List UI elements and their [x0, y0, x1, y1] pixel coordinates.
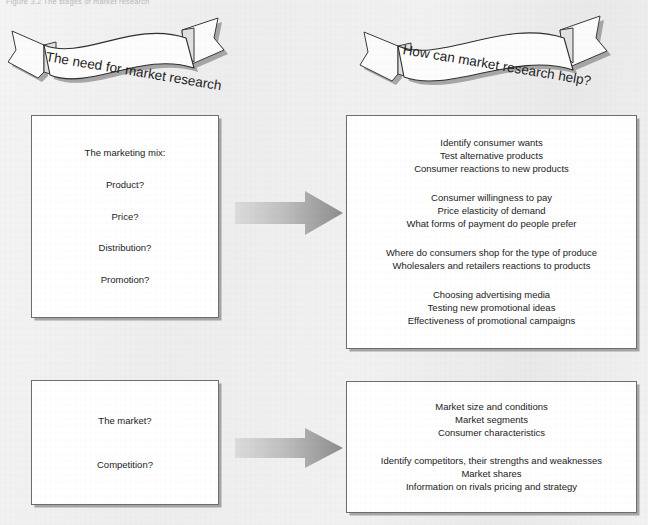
banner-how-can-market-research-help: How can market research help?	[358, 12, 638, 108]
marketing-mix-title: The marketing mix:	[85, 148, 166, 158]
help-item: Consumer willingness to pay	[431, 193, 552, 203]
help-group: Choosing advertising media Testing new p…	[408, 290, 576, 326]
help-item: Effectiveness of promotional campaigns	[408, 316, 576, 326]
market-item: Competition?	[97, 460, 153, 470]
answers-item: Identify competitors, their strengths an…	[381, 456, 602, 466]
answers-item: Consumer characteristics	[438, 428, 545, 438]
help-item: What forms of payment do people prefer	[406, 219, 576, 229]
box-market-research-help: Identify consumer wants Test alternative…	[346, 115, 637, 349]
figure-page: Figure 3.2 The stages of market research…	[0, 0, 648, 525]
answers-item: Market segments	[455, 415, 528, 425]
market-item: The market?	[98, 416, 151, 426]
help-group: Where do consumers shop for the type of …	[386, 248, 597, 271]
box-marketing-mix: The marketing mix: Product? Price? Distr…	[31, 115, 219, 318]
answers-item: Information on rivals pricing and strate…	[406, 482, 577, 492]
arrow-mix-to-help	[233, 190, 345, 236]
figure-caption: Figure 3.2 The stages of market research	[6, 0, 149, 6]
help-item: Testing new promotional ideas	[428, 303, 556, 313]
banner-need-for-market-research: The need for market research	[8, 16, 258, 108]
box-market-and-competition: The market? Competition?	[31, 380, 219, 505]
marketing-mix-item: Product?	[106, 180, 144, 190]
help-item: Test alternative products	[440, 151, 543, 161]
answers-group: Market size and conditions Market segmen…	[435, 402, 547, 438]
answers-item: Market size and conditions	[435, 402, 547, 412]
help-group: Identify consumer wants Test alternative…	[414, 138, 569, 174]
marketing-mix-item: Promotion?	[101, 275, 150, 285]
marketing-mix-item: Distribution?	[99, 243, 152, 253]
marketing-mix-item: Price?	[112, 212, 139, 222]
help-group: Consumer willingness to pay Price elasti…	[406, 193, 576, 229]
arrow-market-to-answers	[233, 427, 345, 469]
box-market-answers: Market size and conditions Market segmen…	[346, 381, 637, 513]
help-item: Consumer reactions to new products	[414, 164, 569, 174]
help-item: Price elasticity of demand	[437, 206, 545, 216]
help-item: Identify consumer wants	[440, 138, 542, 148]
answers-item: Market shares	[461, 469, 521, 479]
answers-group: Identify competitors, their strengths an…	[381, 456, 602, 492]
help-item: Wholesalers and retailers reactions to p…	[392, 261, 590, 271]
help-item: Choosing advertising media	[433, 290, 550, 300]
help-item: Where do consumers shop for the type of …	[386, 248, 597, 258]
